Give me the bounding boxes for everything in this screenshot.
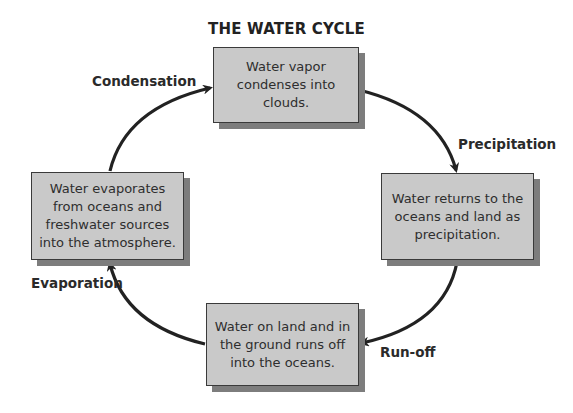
runoff-label: Run-off <box>380 344 435 360</box>
box-text-line: freshwater sources <box>39 216 176 234</box>
condensation-stage-box: Water vapor condenses into clouds. <box>213 47 359 123</box>
diagram-title: THE WATER CYCLE <box>0 20 573 38</box>
box-text-line: from oceans and <box>39 198 176 216</box>
runoff-stage-box: Water on land and in the ground runs off… <box>206 303 359 386</box>
arrow-condensation-to-precipitation <box>359 90 456 170</box>
precipitation-label: Precipitation <box>458 136 556 152</box>
precipitation-stage-box: Water returns to the oceans and land as … <box>381 173 534 260</box>
box-text-line: into the oceans. <box>215 354 351 372</box>
box-text-line: Water vapor <box>237 58 335 76</box>
arrow-evaporation-to-condensation <box>110 88 210 171</box>
arrow-runoff-to-evaporation <box>110 264 205 344</box>
box-text-line: precipitation. <box>392 226 524 244</box>
box-text-line: Water evaporates <box>39 180 176 198</box>
box-text-line: the ground runs off <box>215 336 351 354</box>
arrow-precipitation-to-runoff <box>362 262 457 343</box>
box-text-line: oceans and land as <box>392 208 524 226</box>
box-text-line: condenses into <box>237 76 335 94</box>
box-text-line: Water returns to the <box>392 190 524 208</box>
box-text-line: clouds. <box>237 94 335 112</box>
box-text-line: Water on land and in <box>215 318 351 336</box>
condensation-label: Condensation <box>92 73 196 89</box>
evaporation-stage-box: Water evaporates from oceans and freshwa… <box>31 172 184 260</box>
evaporation-label: Evaporation <box>31 275 123 291</box>
box-text-line: into the atmosphere. <box>39 234 176 252</box>
